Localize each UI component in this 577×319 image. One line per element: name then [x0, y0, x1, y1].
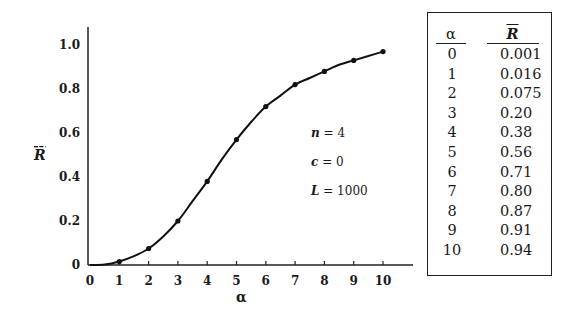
data-point: [175, 218, 180, 223]
table-body: 00.00110.01620.07530.2040.3850.5660.7170…: [428, 45, 551, 261]
x-tick-label: 7: [291, 274, 299, 288]
x-tick-label: 3: [174, 274, 182, 288]
table-row: 90.91: [428, 221, 551, 241]
y-tick-label: 0: [72, 258, 80, 272]
table-row: 00.001: [428, 45, 551, 65]
x-tick-label: 1: [115, 274, 123, 288]
cell-r-bar: 0.001: [474, 45, 551, 65]
header-alpha: α: [428, 25, 474, 45]
table-row: 30.20: [428, 104, 551, 124]
y-tick-label: 0.6: [59, 126, 80, 140]
cell-r-bar: 0.56: [474, 143, 551, 163]
chart: 01234567891000.20.40.60.81.0 R̄ α n = 4c…: [0, 0, 420, 319]
y-tick-label: 0.2: [59, 214, 80, 228]
x-tick-label: 2: [144, 274, 152, 288]
y-tick-label: 1.0: [59, 38, 80, 52]
cell-alpha: 4: [428, 123, 474, 143]
data-point: [293, 82, 298, 87]
cell-alpha: 8: [428, 202, 474, 222]
x-tick-label: 10: [375, 274, 392, 288]
annotation-n: n = 4: [311, 126, 345, 140]
data-points: [117, 49, 386, 264]
data-point: [263, 104, 268, 109]
cell-r-bar: 0.91: [474, 221, 551, 241]
data-point: [322, 69, 327, 74]
cell-alpha: 7: [428, 182, 474, 202]
table-row: 70.80: [428, 182, 551, 202]
cell-r-bar: 0.80: [474, 182, 551, 202]
data-point: [234, 137, 239, 142]
cell-r-bar: 0.016: [474, 65, 551, 85]
cell-alpha: 5: [428, 143, 474, 163]
x-tick-label: 9: [350, 274, 358, 288]
x-tick-label: 0: [86, 274, 94, 288]
cell-r-bar: 0.87: [474, 202, 551, 222]
data-point: [351, 58, 356, 63]
data-table: α R 00.00110.01620.07530.2040.3850.5660.…: [428, 25, 551, 261]
x-axis-label: α: [236, 289, 247, 305]
data-point: [380, 49, 385, 54]
table-row: 50.56: [428, 143, 551, 163]
header-r-bar: R: [474, 25, 551, 45]
annotation-L: L = 1000: [310, 184, 368, 198]
table-row: 60.71: [428, 163, 551, 183]
cell-r-bar: 0.20: [474, 104, 551, 124]
cell-r-bar: 0.38: [474, 123, 551, 143]
x-tick-label: 4: [203, 274, 211, 288]
cell-r-bar: 0.94: [474, 241, 551, 261]
cell-alpha: 6: [428, 163, 474, 183]
data-point: [117, 259, 122, 264]
y-axis-label: R̄: [33, 145, 46, 163]
cell-alpha: 9: [428, 221, 474, 241]
table-header-row: α R: [428, 25, 551, 45]
cell-alpha: 1: [428, 65, 474, 85]
x-tick-label: 8: [320, 274, 328, 288]
data-table-box: α R 00.00110.01620.07530.2040.3850.5660.…: [427, 12, 552, 276]
cell-alpha: 3: [428, 104, 474, 124]
table-row: 100.94: [428, 241, 551, 261]
annotation-c: c = 0: [311, 155, 344, 169]
cell-alpha: 10: [428, 241, 474, 261]
data-point: [146, 246, 151, 251]
y-tick-label: 0.4: [59, 170, 80, 184]
cell-r-bar: 0.71: [474, 163, 551, 183]
table-row: 10.016: [428, 65, 551, 85]
parameter-annotations: n = 4c = 0L = 1000: [310, 126, 368, 198]
data-point: [205, 179, 210, 184]
cell-alpha: 0: [428, 45, 474, 65]
x-tick-label: 5: [232, 274, 240, 288]
y-tick-label: 0.8: [59, 82, 80, 96]
table-row: 80.87: [428, 202, 551, 222]
axes: [88, 27, 413, 265]
x-tick-label: 6: [262, 274, 270, 288]
table-row: 40.38: [428, 123, 551, 143]
cell-r-bar: 0.075: [474, 84, 551, 104]
cell-alpha: 2: [428, 84, 474, 104]
table-row: 20.075: [428, 84, 551, 104]
